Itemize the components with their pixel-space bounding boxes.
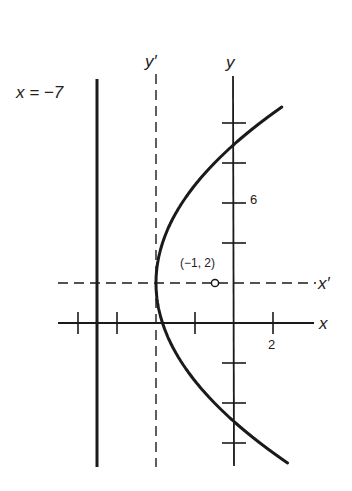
parabola-curve	[156, 107, 288, 463]
y-prime-axis-label: y′	[144, 52, 158, 71]
directrix-label: x = −7	[15, 83, 64, 102]
y-tick-label-6: 6	[250, 192, 257, 207]
parabola-diagram: x = −7 y′ y x x′ (−1, 2) 6 2	[0, 0, 352, 491]
y-axis	[233, 76, 234, 466]
focus-point-label: (−1, 2)	[180, 256, 215, 270]
x-tick-label-2: 2	[268, 337, 275, 352]
y-axis-label: y	[225, 53, 236, 72]
x-prime-axis-label: x′	[317, 274, 331, 293]
focus-point-marker	[211, 279, 218, 286]
x-axis-label: x	[318, 314, 328, 333]
